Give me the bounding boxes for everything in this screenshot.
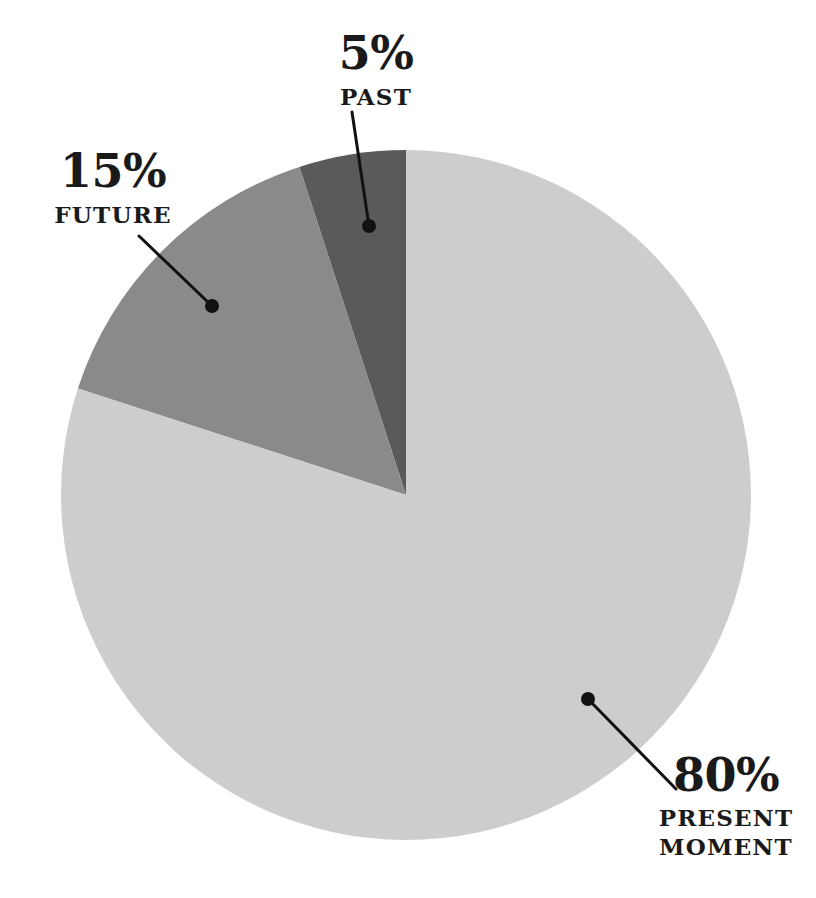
- slice-name-present-moment-line1: PRESENT: [636, 806, 816, 829]
- pie-slice-group: [61, 150, 751, 840]
- slice-percent-past: 5%: [339, 26, 414, 80]
- slice-percent-future: 15%: [60, 144, 166, 198]
- slice-name-present-moment-line2: MOMENT: [636, 835, 816, 858]
- leader-dot-future: [205, 299, 219, 313]
- leader-dot-present: [581, 692, 595, 706]
- slice-label-present-moment: 80% PRESENT MOMENT: [636, 752, 816, 858]
- slice-name-future: FUTURE: [8, 203, 218, 226]
- pie-chart: 5% PAST 15% FUTURE 80% PRESENT MOMENT: [0, 0, 816, 898]
- slice-label-future: 15% FUTURE: [8, 148, 218, 226]
- leader-dot-past: [362, 219, 376, 233]
- slice-name-past: PAST: [276, 85, 476, 108]
- slice-label-past: 5% PAST: [276, 30, 476, 108]
- slice-percent-present-moment: 80%: [673, 748, 779, 802]
